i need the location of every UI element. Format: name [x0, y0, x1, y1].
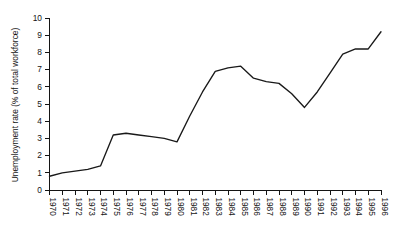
x-axis-tick-label: 1994	[354, 198, 363, 217]
y-axis-tick-label: 8	[37, 47, 42, 57]
x-axis-tick-label: 1980	[176, 198, 185, 217]
x-axis-tick-label: 1973	[87, 198, 96, 217]
y-axis-tick-label: 4	[37, 116, 42, 126]
y-axis-tick-label: 0	[37, 185, 42, 195]
x-axis-tick-label: 1976	[125, 198, 134, 217]
y-axis-tick-label: 9	[37, 30, 42, 40]
x-axis-tick-label: 1970	[48, 198, 57, 217]
y-axis-tick-label: 2	[37, 150, 42, 160]
unemployment-rate-line-chart: Unemployment rate (% of total workforce)…	[0, 0, 399, 237]
x-axis-tick-label: 1982	[201, 198, 210, 217]
x-axis-tick-label: 1971	[61, 198, 70, 217]
y-axis-tick-label: 5	[37, 99, 42, 109]
x-axis-tick-labels: 1970197119721973197419751976197719781979…	[48, 198, 389, 217]
x-axis-tick-label: 1988	[278, 198, 287, 217]
chart-figure: Unemployment rate (% of total workforce)…	[0, 0, 399, 237]
y-axis-title: Unemployment rate (% of total workforce)	[10, 28, 20, 183]
x-axis-tick-label: 1974	[99, 198, 108, 217]
y-axis-tick-label: 7	[37, 64, 42, 74]
y-axis-tick-labels: 012345678910	[33, 13, 43, 195]
x-axis-tick-label: 1991	[316, 198, 325, 217]
x-axis-tick-label: 1979	[163, 198, 172, 217]
y-axis-ticks	[45, 18, 50, 190]
x-axis-tick-label: 1995	[367, 198, 376, 217]
x-axis-tick-label: 1987	[265, 198, 274, 217]
y-axis-tick-label: 10	[33, 13, 43, 23]
y-axis-tick-label: 3	[37, 133, 42, 143]
y-axis-tick-label: 6	[37, 82, 42, 92]
x-axis-tick-label: 1977	[138, 198, 147, 217]
y-axis-tick-label: 1	[37, 168, 42, 178]
x-axis-tick-label: 1993	[342, 198, 351, 217]
x-axis-tick-label: 1983	[214, 198, 223, 217]
x-axis-tick-label: 1986	[252, 198, 261, 217]
x-axis-tick-label: 1992	[329, 198, 338, 217]
x-axis-tick-label: 1989	[291, 198, 300, 217]
x-axis-tick-label: 1984	[227, 198, 236, 217]
x-axis-tick-label: 1981	[189, 198, 198, 217]
x-axis-tick-label: 1990	[303, 198, 312, 217]
x-axis-tick-label: 1985	[240, 198, 249, 217]
x-axis-tick-label: 1978	[150, 198, 159, 217]
x-axis-tick-label: 1996	[380, 198, 389, 217]
x-axis-tick-label: 1975	[112, 198, 121, 217]
x-axis-tick-label: 1972	[74, 198, 83, 217]
unemployment-rate-series-line	[50, 32, 382, 176]
